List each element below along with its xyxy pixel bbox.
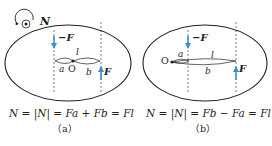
lever-arm-b	[73, 58, 100, 64]
torque-indicator	[15, 9, 33, 28]
arm-total-label: l	[76, 47, 79, 57]
panel-a-equation: N = |N| = Fa + Fb = Fl	[9, 107, 134, 119]
panel-a-caption: （a）	[52, 121, 78, 135]
arm-total-label: l	[211, 50, 214, 60]
lever-arm-b	[172, 59, 236, 65]
pivot-point	[170, 60, 173, 63]
force-bottom-label: F	[104, 66, 111, 77]
pivot-label: O	[161, 55, 169, 66]
arm-a-label: a	[178, 49, 183, 59]
arm-b-label: b	[205, 66, 211, 76]
pivot-label: O	[68, 63, 76, 74]
force-top-label: −F	[192, 32, 207, 43]
panel-b-equation: N = |N| = Fb − Fa = Fl	[146, 107, 271, 119]
panel-b-caption: （b）	[190, 121, 216, 135]
force-bottom-label: F	[239, 63, 246, 74]
out-of-page-dot-icon	[25, 23, 28, 26]
arm-b-label: b	[86, 67, 92, 77]
force-top-label: −F	[58, 32, 73, 43]
arm-a-label: a	[59, 64, 64, 74]
torque-label: N	[40, 15, 50, 28]
